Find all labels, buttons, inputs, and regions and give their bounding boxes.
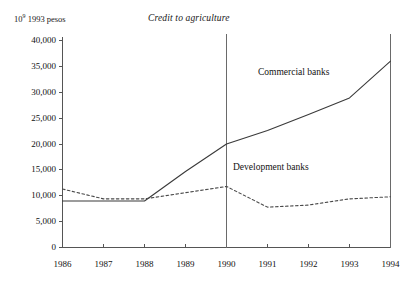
reference-lines [227,34,391,248]
chart-figure: 109 1993 pesos Credit to agriculture Com… [0,0,414,283]
plot-area [0,0,414,283]
